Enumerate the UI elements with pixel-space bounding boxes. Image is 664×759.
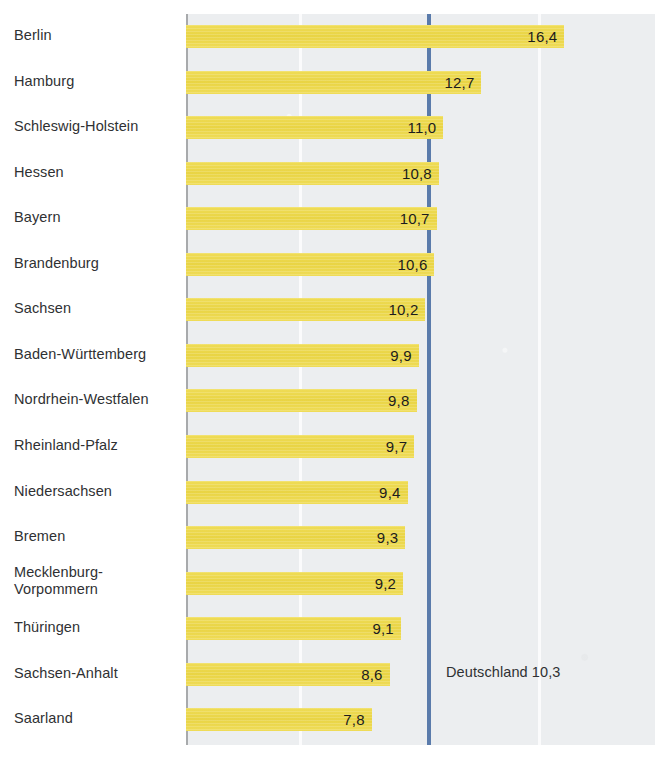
category-label: Nordrhein-Westfalen bbox=[14, 391, 182, 408]
bar-value-label: 9,9 bbox=[186, 344, 419, 367]
category-label: Rheinland-Pfalz bbox=[14, 437, 182, 454]
bar-value-label: 8,6 bbox=[186, 663, 390, 686]
bar-value-label: 7,8 bbox=[186, 708, 372, 731]
bar-value-label: 12,7 bbox=[186, 71, 481, 94]
bar-value-label: 16,4 bbox=[186, 25, 564, 48]
category-label: Sachsen bbox=[14, 300, 182, 317]
category-label: Saarland bbox=[14, 710, 182, 727]
bar-value-label: 9,1 bbox=[186, 617, 401, 640]
bar-value-label: 11,0 bbox=[186, 116, 443, 139]
bar-value-label: 9,4 bbox=[186, 481, 408, 504]
category-label: Hamburg bbox=[14, 73, 182, 90]
bar-value-label: 9,2 bbox=[186, 572, 403, 595]
category-label: Berlin bbox=[14, 27, 182, 44]
bar-value-label: 10,7 bbox=[186, 207, 437, 230]
category-label: Thüringen bbox=[14, 619, 182, 636]
category-label: Brandenburg bbox=[14, 255, 182, 272]
reference-line-label: Deutschland 10,3 bbox=[446, 664, 560, 680]
bar-value-label: 10,2 bbox=[186, 298, 425, 321]
category-label: Schleswig-Holstein bbox=[14, 118, 182, 135]
bar-value-label: 9,3 bbox=[186, 526, 405, 549]
plot-area: 16,412,711,010,810,710,610,29,99,89,79,4… bbox=[186, 14, 655, 745]
category-label: Bayern bbox=[14, 209, 182, 226]
category-label: Hessen bbox=[14, 164, 182, 181]
category-label: Baden-Württemberg bbox=[14, 346, 182, 363]
bar-value-label: 10,6 bbox=[186, 253, 434, 276]
bar-chart: 16,412,711,010,810,710,610,29,99,89,79,4… bbox=[0, 0, 664, 759]
category-label: Niedersachsen bbox=[14, 483, 182, 500]
category-label: Sachsen-Anhalt bbox=[14, 665, 182, 682]
bar-value-label: 9,8 bbox=[186, 389, 417, 412]
bar-value-label: 9,7 bbox=[186, 435, 414, 458]
bar-value-label: 10,8 bbox=[186, 162, 439, 185]
gridline-2 bbox=[538, 14, 541, 745]
category-label: Bremen bbox=[14, 528, 182, 545]
category-label: Mecklenburg- Vorpommern bbox=[14, 564, 182, 598]
